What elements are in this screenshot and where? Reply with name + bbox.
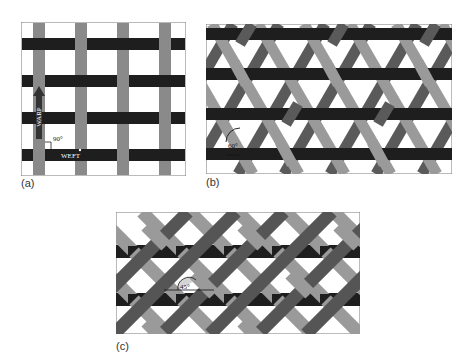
angle-45-label: 45° — [180, 283, 190, 291]
panel-b-triaxial-weave: 60° — [206, 24, 452, 174]
panel-a-plain-weave: WARP 90° WEFT — [21, 22, 186, 176]
panel-c-bias-weave: 45° — [116, 212, 360, 334]
panel-b-label: (b) — [206, 176, 219, 188]
angle-60-label: 60° — [228, 142, 238, 150]
angle-90-label: 90° — [53, 135, 63, 143]
warp-label: WARP — [35, 107, 43, 127]
weft-label: WEFT — [61, 152, 81, 160]
panel-c-label: (c) — [116, 340, 129, 352]
plain-weave-diagram: WARP 90° WEFT — [21, 22, 186, 176]
triaxial-weave-diagram: 60° — [206, 24, 452, 174]
bias-weave-diagram: 45° — [116, 212, 360, 334]
panel-a-label: (a) — [21, 177, 34, 189]
